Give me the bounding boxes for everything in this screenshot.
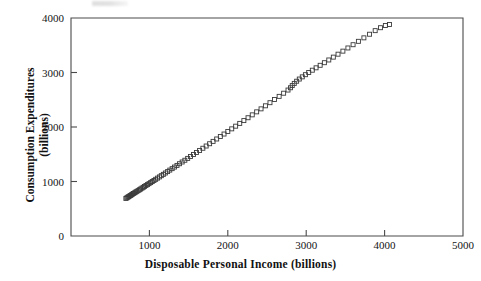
data-point-marker (277, 94, 281, 98)
data-point-marker (273, 98, 277, 102)
data-point-marker (238, 121, 242, 125)
y-tick-label-0: 0 (59, 230, 65, 242)
data-point-marker (268, 101, 272, 105)
scatter-plot-figure: 10002000300040005000 01000200030004000 C… (0, 0, 481, 281)
data-point-marker (336, 52, 340, 56)
data-point-marker (259, 107, 263, 111)
data-point-marker (255, 110, 259, 114)
y-axis-title-line-1: Consumption Expenditures (23, 15, 37, 255)
data-point-marker (368, 32, 372, 36)
plot-canvas: 10002000300040005000 01000200030004000 (0, 0, 481, 281)
data-point-marker (351, 43, 355, 47)
data-point-marker (234, 124, 238, 128)
x-tick-label-2000: 2000 (217, 239, 240, 251)
data-point-marker (331, 55, 335, 59)
x-axis-title: Disposable Personal Income (billions) (0, 258, 481, 270)
data-point-marker (383, 24, 387, 28)
data-point-marker (373, 29, 377, 33)
x-tick-label-1000: 1000 (138, 239, 161, 251)
data-point-marker (387, 23, 391, 27)
x-axis-tick-labels: 10002000300040005000 (138, 239, 474, 251)
x-axis-ticks (149, 230, 384, 236)
data-point-marker (230, 127, 234, 131)
data-point-marker (246, 116, 250, 120)
data-point-markers (124, 23, 392, 201)
data-point-marker (362, 36, 366, 40)
x-tick-label-5000: 5000 (452, 239, 475, 251)
y-axis-title: Consumption Expenditures (billions) (23, 15, 57, 255)
data-point-marker (379, 26, 383, 30)
y-axis-ticks (71, 73, 77, 182)
data-point-marker (250, 113, 254, 117)
data-point-marker (346, 46, 350, 50)
data-point-marker (242, 119, 246, 123)
data-point-marker (341, 49, 345, 53)
data-point-marker (318, 63, 322, 67)
data-point-marker (282, 91, 286, 95)
x-tick-label-4000: 4000 (374, 239, 397, 251)
data-point-marker (263, 104, 267, 108)
plot-frame (71, 18, 463, 236)
data-point-marker (322, 61, 326, 65)
data-point-marker (356, 39, 360, 43)
x-tick-label-3000: 3000 (295, 239, 318, 251)
y-axis-title-line-2: (billions) (37, 15, 51, 255)
data-point-marker (327, 58, 331, 62)
